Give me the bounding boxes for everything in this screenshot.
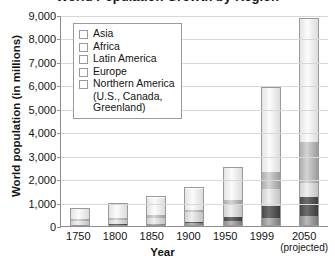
y-tick-mark (57, 204, 61, 205)
y-tick-mark (57, 16, 61, 17)
legend-label: Latin America (93, 53, 157, 65)
y-tick-label: 9,000 (2, 11, 56, 21)
bar-segment-northern-america[interactable] (147, 224, 165, 225)
legend-item-northern-america[interactable]: Northern America (79, 78, 175, 90)
bar-segment-asia[interactable] (71, 209, 89, 219)
bar-segment-asia[interactable] (224, 168, 242, 200)
bar-segment-europe[interactable] (185, 212, 203, 221)
bar-segment-europe[interactable] (224, 205, 242, 217)
gridline (61, 180, 328, 181)
bar-column-1950 (214, 16, 252, 226)
legend-item-africa[interactable]: Africa (79, 41, 175, 53)
gridline (61, 157, 328, 158)
y-tick-label: 2,000 (2, 175, 56, 185)
legend-label: Northern America (93, 78, 175, 90)
bar-segment-asia[interactable] (147, 198, 165, 216)
y-tick-mark (57, 63, 61, 64)
stacked-bar[interactable] (184, 187, 204, 226)
y-tick-mark (57, 39, 61, 40)
y-tick-label: 0 (2, 222, 56, 232)
y-tick-label: 7,000 (2, 58, 56, 68)
stacked-bar[interactable] (108, 203, 128, 226)
legend-label: Asia (93, 28, 113, 40)
stacked-bar[interactable] (70, 208, 90, 226)
stacked-bar[interactable] (146, 196, 166, 226)
y-tick-label: 5,000 (2, 105, 56, 115)
bar-segment-asia[interactable] (109, 204, 127, 218)
bar-segment-northern-america[interactable] (185, 223, 203, 225)
bar-segment-asia[interactable] (185, 189, 203, 210)
y-tick-label: 6,000 (2, 81, 56, 91)
x-tick-label: 2050(projected) (280, 230, 328, 254)
legend-item-latin-america[interactable]: Latin America (79, 53, 175, 65)
legend-label: Europe (93, 66, 127, 78)
bar-segment-europe[interactable] (300, 183, 318, 198)
bar-segment-northern-america[interactable] (224, 221, 242, 225)
bar-segment-latin-america[interactable] (262, 206, 280, 218)
stacked-bar[interactable] (223, 167, 243, 226)
y-tick-mark (57, 86, 61, 87)
y-tick-mark (57, 110, 61, 111)
y-tick-mark (57, 180, 61, 181)
gridline (61, 16, 328, 17)
bar-segment-asia[interactable] (300, 19, 318, 141)
legend-label-continuation: Greenland) (93, 102, 175, 114)
bar-segment-northern-america[interactable] (262, 218, 280, 225)
y-tick-mark (57, 133, 61, 134)
bar-segment-northern-america[interactable] (300, 216, 318, 225)
bar-column-2050 (290, 16, 328, 226)
legend-label: Africa (93, 41, 120, 53)
y-tick-label: 4,000 (2, 128, 56, 138)
legend-swatch-asia (79, 30, 88, 39)
legend-swatch-latin-america (79, 55, 88, 64)
y-tick-mark (57, 157, 61, 158)
legend-item-asia[interactable]: Asia (79, 28, 175, 40)
bar-segment-latin-america[interactable] (300, 197, 318, 216)
legend-item-europe[interactable]: Europe (79, 66, 175, 78)
stacked-bar[interactable] (299, 18, 319, 226)
chart-legend: AsiaAfricaLatin AmericaEuropeNorthern Am… (73, 23, 182, 119)
y-tick-label: 3,000 (2, 152, 56, 162)
gridline (61, 204, 328, 205)
x-tick-sublabel: (projected) (280, 242, 328, 254)
y-tick-label: 1,000 (2, 199, 56, 209)
bar-segment-africa[interactable] (300, 142, 318, 183)
chart-title: World Population Growth by Region (0, 0, 335, 4)
y-tick-mark (57, 227, 61, 228)
gridline (61, 133, 328, 134)
y-tick-label: 8,000 (2, 34, 56, 44)
y-axis-tick-labels: 9,0008,0007,0006,0005,0004,0003,0002,000… (0, 16, 56, 227)
bar-segment-asia[interactable] (262, 88, 280, 172)
bar-column-1999 (252, 16, 290, 226)
legend-swatch-africa (79, 43, 88, 52)
legend-swatch-europe (79, 68, 88, 77)
x-axis-title: Year (60, 246, 265, 258)
stacked-bar-chart: World Population Growth by Region World … (0, 0, 335, 270)
legend-swatch-northern-america (79, 80, 88, 89)
